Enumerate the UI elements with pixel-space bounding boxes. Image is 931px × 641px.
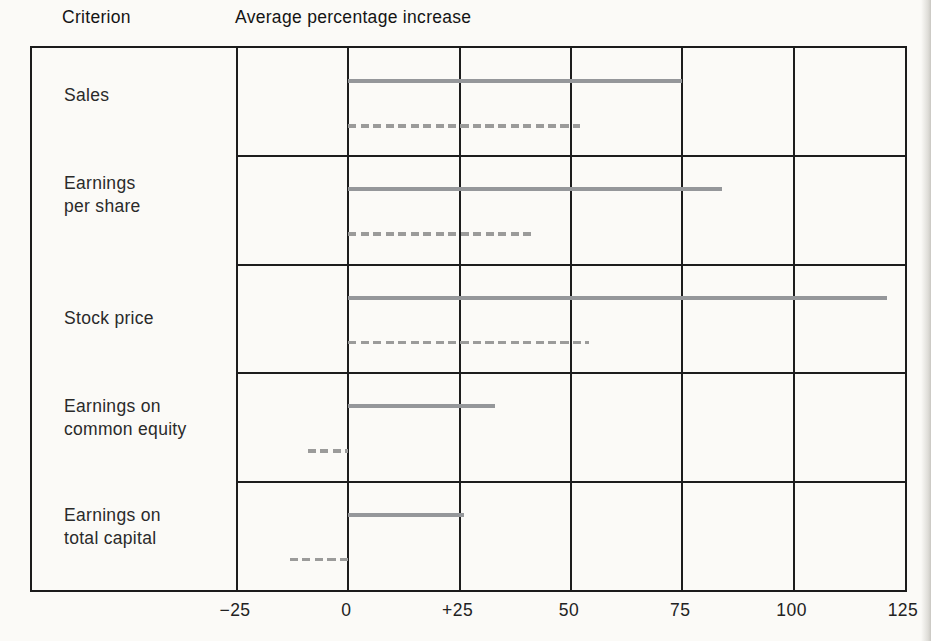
v-gridline-−25 [236,48,238,590]
category-label-line: per share [64,195,141,218]
solid-bar-stock-price [348,296,887,300]
x-tick-label: 100 [760,600,824,621]
v-gridline-+25 [459,48,461,590]
category-label-line: Sales [64,84,109,107]
solid-bar-earnings-per-share [348,187,722,191]
row-divider [237,264,905,266]
x-tick-label: −25 [203,600,267,621]
x-tick-label: 0 [314,600,378,621]
dashed-bar-sales [348,124,580,128]
category-label: Sales [64,84,109,107]
category-label: Stock price [64,307,154,330]
category-label-line: Stock price [64,307,154,330]
x-tick-label: +25 [426,600,490,621]
chart-box: SalesEarningsper shareStock priceEarning… [30,46,907,592]
v-gridline-75 [681,48,683,590]
row-divider [237,372,905,374]
x-tick-label: 50 [537,600,601,621]
x-tick-label: 75 [648,600,712,621]
row-divider [237,155,905,157]
v-gridline-100 [793,48,795,590]
row-divider [237,481,905,483]
solid-bar-earnings-on-total-capital [348,513,464,517]
page: Criterion Average percentage increase Sa… [0,0,931,641]
solid-bar-sales [348,79,682,83]
category-label-line: total capital [64,527,161,550]
dashed-bar-earnings-per-share [348,232,531,236]
dashed-bar-earnings-on-common-equity [308,449,348,453]
category-label-line: Earnings on [64,504,161,527]
page-edge-shadow [921,0,931,641]
dashed-bar-earnings-on-total-capital [290,558,348,562]
dashed-bar-stock-price [348,341,588,345]
category-label: Earnings oncommon equity [64,395,187,441]
category-label: Earningsper share [64,172,141,218]
solid-bar-earnings-on-common-equity [348,404,495,408]
axis-title-label: Average percentage increase [235,7,471,28]
criterion-header-label: Criterion [62,7,131,28]
category-label-line: Earnings [64,172,141,195]
category-label: Earnings ontotal capital [64,504,161,550]
category-label-line: Earnings on [64,395,187,418]
category-label-line: common equity [64,418,187,441]
v-gridline-0 [347,48,349,590]
v-gridline-50 [570,48,572,590]
